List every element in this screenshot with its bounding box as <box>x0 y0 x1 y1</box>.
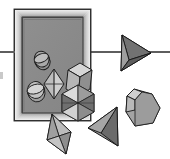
left-edge-tick <box>0 72 3 79</box>
geometric-solids-illustration <box>0 0 170 159</box>
scene-root: Geometric solids beside a framed mirror <box>0 0 170 159</box>
